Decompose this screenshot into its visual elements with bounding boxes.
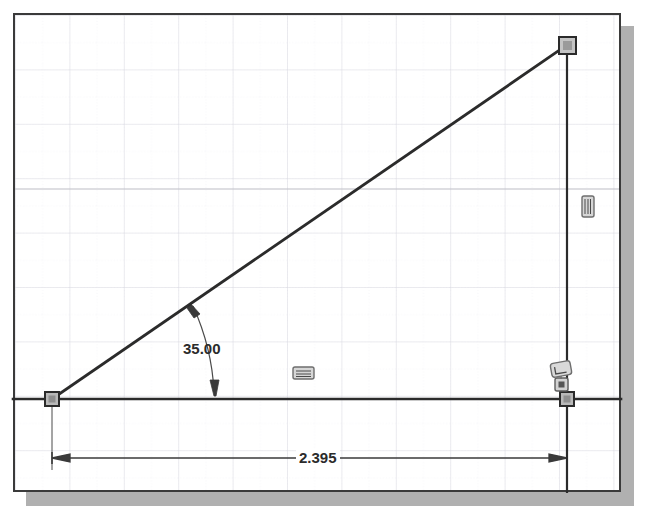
angle-dimension-value[interactable]: 35.00 [183, 340, 221, 357]
angle-arrow-lower [210, 380, 219, 396]
perpendicular-constraint-icon[interactable] [550, 360, 572, 377]
inclined-line [52, 45, 567, 399]
vertical-constraint-icon[interactable] [582, 196, 594, 217]
dim-arrow-left [52, 454, 70, 462]
sketch-application-window: 35.00 2.395 [0, 0, 654, 508]
length-dimension-value[interactable]: 2.395 [296, 449, 340, 466]
origin-point [45, 392, 59, 406]
apex-point [559, 37, 576, 54]
horizontal-constraint-icon[interactable] [293, 367, 314, 379]
sketch-entities [13, 45, 621, 492]
dim-arrow-right [549, 454, 567, 462]
coincident-constraint-icon[interactable] [555, 378, 568, 391]
sketch-geometry-layer [0, 0, 654, 508]
corner-point [560, 392, 574, 406]
